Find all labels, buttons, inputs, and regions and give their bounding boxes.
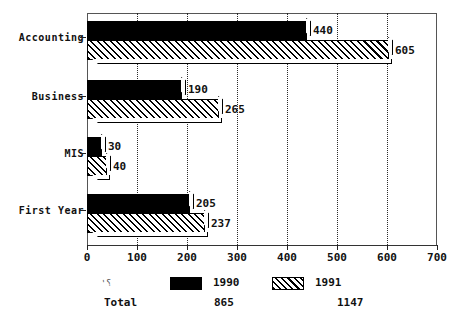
legend-swatch-1991 <box>272 277 304 290</box>
x-tick-700 <box>437 245 438 250</box>
category-tick-accounting <box>80 37 86 38</box>
x-tick-label-300: 300 <box>217 251 257 264</box>
chart-legend: '⸮ 1990 1991 Total 865 1147 <box>0 274 455 326</box>
value-label-business-1990: 190 <box>188 83 208 96</box>
category-label-mis: MIS <box>0 148 84 159</box>
total-value-1990: 865 <box>214 296 234 309</box>
value-label-accounting-1990: 440 <box>313 24 333 37</box>
x-tick-label-400: 400 <box>267 251 307 264</box>
bar-shadow-icon <box>92 118 222 123</box>
value-label-accounting-1991: 605 <box>395 44 415 57</box>
category-label-accounting: Accounting <box>0 32 84 43</box>
bar-mis-1990 <box>87 137 102 157</box>
bar-first-year-1991 <box>87 213 205 233</box>
bar-mis-1991 <box>87 156 107 176</box>
bar-business-1991 <box>87 99 219 119</box>
x-tick-200 <box>187 245 188 250</box>
legend-label-1991: 1991 <box>315 276 342 289</box>
category-tick-business <box>80 96 86 97</box>
stray-mark: '⸮ <box>100 277 112 288</box>
bar-business-1990 <box>87 80 182 100</box>
x-tick-0 <box>87 245 88 250</box>
bar-first-year-1990 <box>87 194 190 214</box>
x-tick-600 <box>387 245 388 250</box>
x-tick-500 <box>337 245 338 250</box>
x-tick-label-100: 100 <box>117 251 157 264</box>
legend-swatch-1990 <box>170 277 202 290</box>
x-tick-label-500: 500 <box>317 251 357 264</box>
category-tick-first-year <box>80 210 86 211</box>
x-tick-label-200: 200 <box>167 251 207 264</box>
legend-label-1990: 1990 <box>213 276 240 289</box>
x-tick-400 <box>287 245 288 250</box>
value-label-first-year-1990: 205 <box>196 197 216 210</box>
total-value-1991: 1147 <box>337 296 364 309</box>
bar-shadow-icon <box>92 232 208 237</box>
bar-shadow-icon <box>92 59 392 64</box>
value-label-first-year-1991: 237 <box>211 217 231 230</box>
value-label-mis-1990: 30 <box>108 140 121 153</box>
bar-accounting-1990 <box>87 21 307 41</box>
category-tick-mis <box>80 153 86 154</box>
x-tick-label-700: 700 <box>417 251 455 264</box>
bar-accounting-1991 <box>87 40 389 60</box>
value-label-mis-1991: 40 <box>113 160 126 173</box>
x-tick-300 <box>237 245 238 250</box>
category-label-business: Business <box>0 91 84 102</box>
x-tick-label-600: 600 <box>367 251 407 264</box>
x-axis-line <box>87 245 438 246</box>
category-label-first-year: First Year <box>0 205 84 216</box>
x-tick-100 <box>137 245 138 250</box>
value-label-business-1991: 265 <box>225 103 245 116</box>
total-row-label: Total <box>104 296 137 309</box>
